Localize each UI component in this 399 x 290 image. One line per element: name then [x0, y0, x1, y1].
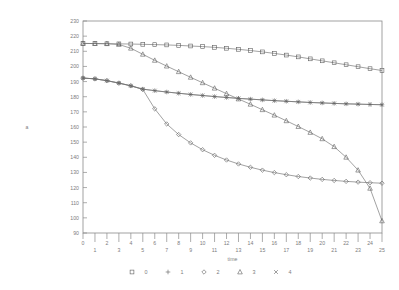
legend-label-0: 0	[145, 269, 148, 275]
x-axis-tick-label: 22	[343, 240, 349, 246]
y-axis-tick-label: 150	[70, 139, 79, 145]
x-axis-tick-label: 5	[141, 247, 144, 253]
x-axis-tick-label: 6	[153, 240, 156, 246]
plot-frame	[83, 21, 382, 233]
chart-container: 9010011012013014015016017018019020021022…	[0, 0, 399, 290]
y-axis-tick-label: 170	[70, 109, 79, 115]
x-axis-tick-label: 21	[331, 247, 337, 253]
x-axis-tick-label: 8	[177, 240, 180, 246]
series-line-4	[83, 78, 382, 105]
x-axis-tick-label: 4	[129, 240, 132, 246]
y-axis-tick-label: 180	[70, 94, 79, 100]
x-axis-tick-label: 1	[94, 247, 97, 253]
y-axis-title: a	[26, 124, 29, 130]
x-axis-tick-label: 18	[295, 240, 301, 246]
legend-marker-2	[202, 270, 206, 274]
x-axis-tick-label: 7	[165, 247, 168, 253]
series-line-1	[83, 78, 382, 105]
y-axis-tick-label: 100	[70, 215, 79, 221]
legend-marker-3	[238, 270, 243, 274]
x-axis-tick-label: 12	[224, 240, 230, 246]
legend-label-3: 3	[253, 269, 256, 275]
x-axis-tick-label: 17	[283, 247, 289, 253]
y-axis-tick-label: 210	[70, 48, 79, 54]
series-line-2	[83, 78, 382, 183]
x-axis-tick-label: 25	[379, 247, 385, 253]
x-axis-tick-label: 9	[189, 247, 192, 253]
x-axis-tick-label: 23	[355, 247, 361, 253]
y-axis-tick-label: 130	[70, 169, 79, 175]
x-axis-tick-label: 16	[271, 240, 277, 246]
x-axis-tick-label: 13	[236, 247, 242, 253]
x-axis-tick-label: 0	[82, 240, 85, 246]
y-axis-tick-label: 190	[70, 79, 79, 85]
x-axis-title: time	[228, 256, 238, 262]
x-axis-tick-label: 3	[117, 247, 120, 253]
series-line-3	[83, 43, 382, 220]
x-axis-tick-label: 2	[105, 240, 108, 246]
x-axis-tick-label: 14	[248, 240, 254, 246]
x-axis-tick-label: 15	[260, 247, 266, 253]
y-axis-tick-label: 230	[70, 18, 79, 24]
y-axis-tick-label: 220	[70, 33, 79, 39]
x-axis-tick-label: 11	[212, 247, 217, 253]
y-axis-tick-label: 160	[70, 124, 79, 130]
x-axis-tick-label: 24	[367, 240, 373, 246]
x-axis-tick-label: 20	[319, 240, 325, 246]
line-chart: 9010011012013014015016017018019020021022…	[0, 0, 399, 290]
legend-marker-0	[130, 270, 134, 274]
x-axis-tick-label: 19	[307, 247, 313, 253]
y-axis-tick-label: 200	[70, 63, 79, 69]
legend-label-4: 4	[289, 269, 292, 275]
y-axis-tick-label: 140	[70, 154, 79, 160]
legend-label-1: 1	[181, 269, 184, 275]
x-axis-tick-label: 10	[200, 240, 206, 246]
y-axis-tick-label: 90	[73, 230, 79, 236]
legend-label-2: 2	[217, 269, 220, 275]
y-axis-tick-label: 120	[70, 185, 79, 191]
y-axis-tick-label: 110	[71, 200, 79, 206]
